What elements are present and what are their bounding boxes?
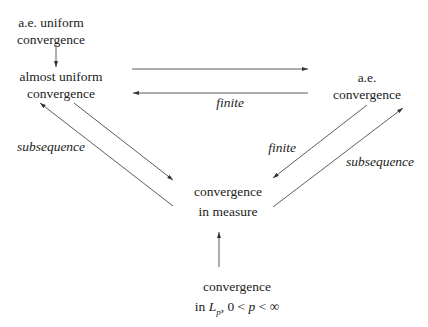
edge-label-finite-top: finite [216, 94, 244, 111]
convergence-diagram: a.e. uniform convergence almost uniform … [0, 0, 428, 327]
node-ae-line2: convergence [333, 86, 401, 103]
node-almost-uniform: almost uniform convergence [20, 68, 103, 102]
node-lp-line1: convergence [195, 277, 280, 297]
node-lp: convergence in Lp, 0 < p < ∞ [195, 277, 280, 322]
node-measure: convergence in measure [194, 182, 262, 222]
node-ae: a.e. convergence [333, 69, 401, 103]
edge-label-subsequence-right: subsequence [346, 153, 414, 170]
node-measure-line1: convergence [194, 182, 262, 202]
node-lp-line2: in Lp, 0 < p < ∞ [195, 297, 280, 322]
node-measure-line2: in measure [194, 202, 262, 222]
arrow-almost-uniform-to-measure [74, 103, 173, 180]
edge-label-finite-right: finite [268, 139, 296, 156]
node-almost-uniform-line1: almost uniform [20, 68, 103, 85]
node-almost-uniform-line2: convergence [20, 85, 103, 102]
node-ae-line1: a.e. [333, 69, 401, 86]
node-ae-uniform-line2: convergence [17, 31, 85, 48]
edge-label-subsequence-left: subsequence [17, 138, 85, 155]
node-ae-uniform: a.e. uniform convergence [17, 14, 85, 48]
node-ae-uniform-line1: a.e. uniform [17, 14, 85, 31]
